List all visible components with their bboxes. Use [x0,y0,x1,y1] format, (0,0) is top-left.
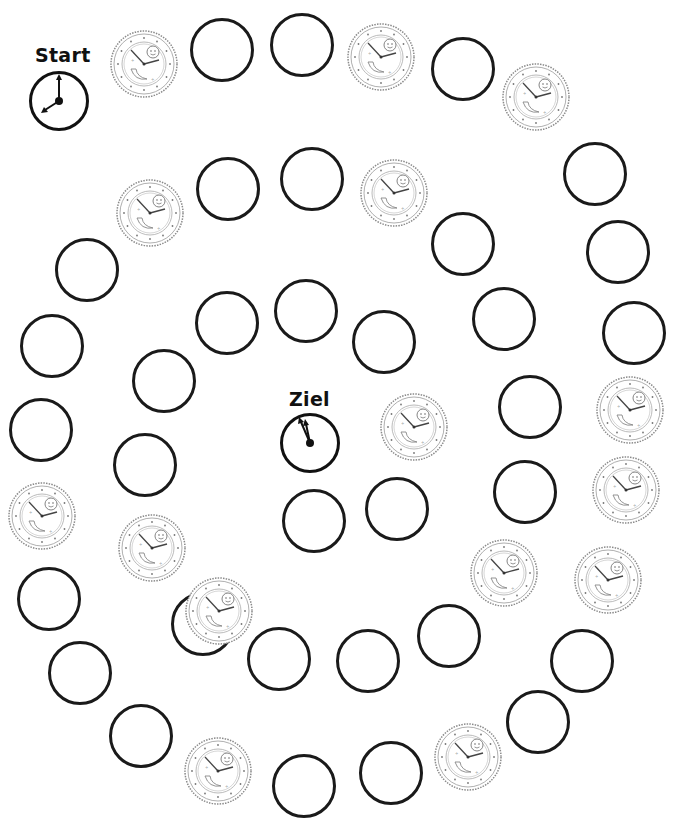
board-space-29[interactable] [362,161,426,225]
board-space-33[interactable] [493,460,557,524]
start-label: Start [35,44,91,66]
clock-picture-icon [117,513,187,583]
board-space-47[interactable] [282,489,346,553]
board-space-10[interactable] [598,378,662,442]
board-space-44[interactable] [352,310,416,374]
board-space-30[interactable] [431,212,495,276]
clock-picture-icon [184,576,254,646]
board-space-18[interactable] [186,739,250,803]
board-space-9[interactable] [602,301,666,365]
board-space-1[interactable] [112,32,176,96]
board-space-17[interactable] [272,754,336,818]
board-space-16[interactable] [359,741,423,805]
board-space-37[interactable] [247,627,311,691]
board-space-26[interactable] [118,181,182,245]
clock-picture-icon [359,158,429,228]
goal-label: Ziel [289,388,330,410]
board-space-12[interactable] [576,548,640,612]
board-space-36[interactable] [336,629,400,693]
board-space-48[interactable] [187,579,251,643]
game-board: Start Ziel [0,0,675,824]
goal-clock-icon [279,412,341,474]
board-space-19[interactable] [109,704,173,768]
board-space-6[interactable] [504,65,568,129]
board-space-7[interactable] [563,142,627,206]
board-space-13[interactable] [550,629,614,693]
board-space-42[interactable] [195,291,259,355]
board-space-45[interactable] [382,395,446,459]
board-space-5[interactable] [431,37,495,101]
clock-picture-icon [591,455,661,525]
board-space-3[interactable] [270,13,334,77]
board-space-25[interactable] [55,238,119,302]
board-space-11[interactable] [594,458,658,522]
clock-picture-icon [183,736,253,806]
board-space-28[interactable] [280,147,344,211]
board-space-21[interactable] [17,567,81,631]
clock-picture-icon [7,481,77,551]
board-space-43[interactable] [274,279,338,343]
board-space-2[interactable] [190,18,254,82]
board-space-20[interactable] [48,641,112,705]
board-space-23[interactable] [9,398,73,462]
goal-clock[interactable] [279,412,341,474]
start-clock-icon [28,70,90,132]
clock-picture-icon [433,722,503,792]
board-space-15[interactable] [436,725,500,789]
clock-picture-icon [469,538,539,608]
board-space-31[interactable] [472,287,536,351]
clock-picture-icon [346,22,416,92]
board-space-22[interactable] [10,484,74,548]
clock-picture-icon [595,375,665,445]
board-space-24[interactable] [20,314,84,378]
clock-picture-icon [109,29,179,99]
clock-picture-icon [573,545,643,615]
clock-picture-icon [501,62,571,132]
board-space-40[interactable] [113,433,177,497]
board-space-4[interactable] [349,25,413,89]
board-space-34[interactable] [472,541,536,605]
clock-picture-icon [115,178,185,248]
board-space-46[interactable] [365,477,429,541]
board-space-32[interactable] [498,375,562,439]
board-space-41[interactable] [132,349,196,413]
board-space-8[interactable] [586,220,650,284]
board-space-14[interactable] [506,690,570,754]
clock-picture-icon [379,392,449,462]
board-space-27[interactable] [196,157,260,221]
start-clock[interactable] [28,70,90,132]
board-space-39[interactable] [120,516,184,580]
board-space-35[interactable] [417,604,481,668]
